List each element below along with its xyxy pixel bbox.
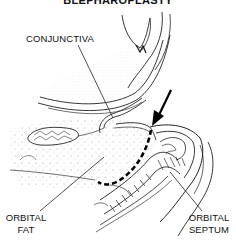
orbital-fat-region: [9, 119, 155, 195]
incision-arrow: [152, 90, 171, 126]
label-orbital-septum-line2: SEPTUM: [182, 224, 236, 236]
label-orbital-septum: ORBITAL SEPTUM: [182, 212, 236, 236]
label-orbital-fat-line2: FAT: [4, 224, 48, 236]
label-orbital-fat-line1: ORBITAL: [4, 212, 48, 224]
label-conjunctiva: CONJUNCTIVA: [26, 33, 94, 45]
label-orbital-septum-line1: ORBITAL: [182, 212, 236, 224]
label-orbital-fat: ORBITAL FAT: [4, 212, 48, 236]
globe: [35, 15, 170, 114]
